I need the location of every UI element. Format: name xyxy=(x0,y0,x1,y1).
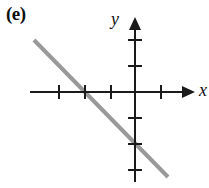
y-axis-label: y xyxy=(111,10,119,28)
y-axis-group xyxy=(128,17,142,182)
plotted-line-group xyxy=(34,40,168,177)
y-axis-arrowhead xyxy=(129,17,141,30)
x-axis-arrowhead xyxy=(182,86,195,98)
graph-figure: (e) y x xyxy=(0,0,209,188)
x-axis-group xyxy=(30,85,195,99)
coordinate-plot xyxy=(0,0,209,188)
x-axis-label: x xyxy=(199,81,207,99)
plotted-line xyxy=(34,40,168,177)
